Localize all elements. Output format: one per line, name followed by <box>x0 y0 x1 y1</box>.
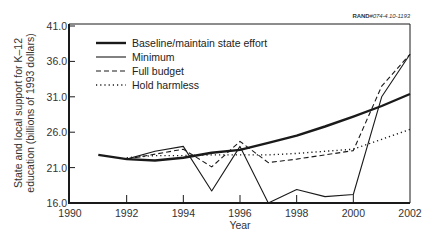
y-tick-label: 41.0 <box>47 20 68 32</box>
legend-label: Full budget <box>132 65 184 77</box>
legend-label: Minimum <box>132 51 175 63</box>
legend-swatch-icon <box>96 52 126 62</box>
legend-swatch-icon <box>96 66 126 76</box>
legend: Baseline/maintain state effortMinimumFul… <box>96 36 267 92</box>
y-tick-label: 21.0 <box>47 162 68 174</box>
legend-label: Hold harmless <box>132 79 199 91</box>
legend-item: Minimum <box>96 50 267 64</box>
x-tick-label: 2000 <box>342 207 366 219</box>
x-tick-label: 1990 <box>58 207 82 219</box>
legend-label: Baseline/maintain state effort <box>132 37 267 49</box>
y-tick-label: 26.0 <box>47 126 68 138</box>
legend-swatch-icon <box>96 38 126 48</box>
legend-item: Baseline/maintain state effort <box>96 36 267 50</box>
y-tick-label: 31.0 <box>47 91 68 103</box>
x-tick-label: 2002 <box>398 207 422 219</box>
legend-item: Hold harmless <box>96 78 267 92</box>
x-tick-label: 1998 <box>285 207 309 219</box>
x-tick-label: 1992 <box>115 207 139 219</box>
x-axis-label: Year <box>220 219 260 231</box>
y-tick-label: 36.0 <box>47 55 68 67</box>
x-tick-label: 1994 <box>172 207 196 219</box>
line-chart: RAND#074-4.10-1193 State and local suppo… <box>0 0 434 243</box>
x-tick-label: 1996 <box>228 207 252 219</box>
legend-swatch-icon <box>96 80 126 90</box>
legend-item: Full budget <box>96 64 267 78</box>
